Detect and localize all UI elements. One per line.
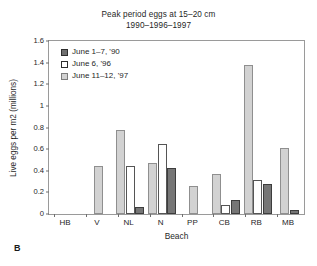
x-axis-tick-mark	[150, 214, 151, 217]
legend-label-90: June 1–7, '90	[72, 47, 120, 57]
x-axis-tick-mark	[54, 214, 55, 217]
y-axis-tick-mark	[46, 170, 49, 171]
x-axis-tick-mark	[86, 214, 87, 217]
bar-RB-series-2	[263, 184, 272, 214]
bar-RB-series-1	[253, 180, 262, 214]
bar-RB-series-0	[244, 65, 253, 214]
x-axis-label: Beach	[48, 231, 305, 241]
legend-label-96: June 6, '96	[72, 59, 111, 69]
y-axis-tick-mark	[46, 105, 49, 106]
bar-CB-series-2	[231, 200, 240, 214]
x-axis-tick-label: RB	[251, 218, 262, 227]
chart-title-block: Peak period eggs at 15–20 cm 1990–1996–1…	[0, 9, 317, 31]
legend-swatch-icon-97	[61, 73, 68, 80]
x-axis-tick-label: MB	[282, 218, 294, 227]
y-axis-label: Live eggs per m2 (millions)	[9, 48, 18, 208]
y-axis-tick-mark	[46, 127, 49, 128]
y-axis-label-wrap: Live eggs per m2 (millions)	[14, 40, 28, 215]
bar-CB-series-1	[221, 205, 230, 214]
chart-subtitle: 1990–1996–1997	[0, 20, 317, 31]
bar-NL-series-0	[116, 130, 125, 214]
x-axis-tick-mark	[245, 214, 246, 217]
plot-area: 00.20.40.60.811.21.41.6HBVNLNPPCBRBMB Ju…	[48, 40, 305, 215]
x-axis-tick-mark	[213, 214, 214, 217]
bar-PP-series-0	[189, 186, 198, 214]
bar-N-series-1	[158, 144, 167, 214]
y-axis-tick-mark	[46, 214, 49, 215]
x-axis-tick-mark	[182, 214, 183, 217]
legend-item-june-1-7-90: June 1–7, '90	[61, 47, 128, 57]
bar-CB-series-0	[212, 174, 221, 214]
legend-item-june-6-96: June 6, '96	[61, 59, 128, 69]
x-axis-tick-label: CB	[219, 218, 230, 227]
x-axis-tick-label: V	[94, 218, 99, 227]
legend-item-june-11-12-97: June 11–12, '97	[61, 71, 128, 81]
bar-N-series-2	[167, 168, 176, 214]
legend-swatch-icon-96	[61, 61, 68, 68]
bar-MB-series-2	[290, 210, 299, 214]
y-axis-tick-mark	[46, 149, 49, 150]
y-axis-tick-mark	[46, 192, 49, 193]
chart-title: Peak period eggs at 15–20 cm	[0, 9, 317, 20]
bar-NL-series-2	[135, 207, 144, 214]
y-axis-tick-mark	[46, 62, 49, 63]
y-axis-tick-mark	[46, 84, 49, 85]
chart-legend: June 1–7, '90 June 6, '96 June 11–12, '9…	[61, 47, 128, 81]
y-axis-tick-mark	[46, 41, 49, 42]
bar-V-series-0	[94, 166, 103, 214]
figure-panel-b: Peak period eggs at 15–20 cm 1990–1996–1…	[0, 0, 317, 266]
panel-label: B	[14, 243, 21, 253]
legend-swatch-icon-90	[61, 49, 68, 56]
x-axis-tick-mark	[118, 214, 119, 217]
x-axis-tick-label: N	[158, 218, 164, 227]
x-axis-tick-mark	[277, 214, 278, 217]
bar-N-series-0	[148, 163, 157, 214]
bar-NL-series-1	[126, 166, 135, 214]
x-axis-tick-label: NL	[124, 218, 134, 227]
bar-MB-series-0	[280, 148, 289, 214]
legend-label-97: June 11–12, '97	[72, 71, 128, 81]
x-axis-tick-label: PP	[187, 218, 198, 227]
x-axis-tick-label: HB	[59, 218, 70, 227]
